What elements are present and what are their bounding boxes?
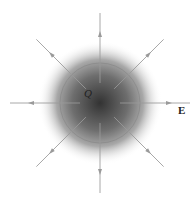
charge-label: Q <box>84 87 92 99</box>
field-arrow-icon <box>98 169 102 175</box>
field-label: E <box>178 104 185 116</box>
field-arrow-icon <box>166 101 172 105</box>
field-arrow-icon <box>98 31 102 37</box>
field-arrow-icon <box>28 101 34 105</box>
field-diagram: Q E <box>0 0 196 199</box>
